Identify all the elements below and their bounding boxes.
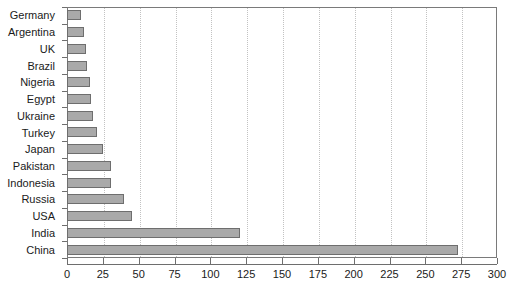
- x-axis-tick: [246, 258, 247, 264]
- x-axis-tick: [425, 258, 426, 264]
- x-axis-tick: [67, 258, 68, 264]
- x-axis-tick: [139, 258, 140, 264]
- bar-row: [67, 57, 87, 74]
- x-axis-tick-label: 0: [64, 268, 70, 280]
- x-axis-tick: [175, 258, 176, 264]
- y-axis-tick: [62, 40, 67, 41]
- bar-chart: GermanyArgentinaUKBrazilNigeriaEgyptUkra…: [0, 0, 512, 290]
- x-axis-tick-label: 25: [97, 268, 109, 280]
- x-axis-tick-label: 200: [344, 268, 362, 280]
- bar: [67, 228, 240, 238]
- y-axis-tick-label: Japan: [25, 143, 55, 155]
- y-axis-tick: [62, 225, 67, 226]
- y-axis-tick-label: Ukraine: [17, 110, 55, 122]
- bar: [67, 245, 458, 255]
- x-axis-tick: [354, 258, 355, 264]
- y-axis-tick: [62, 74, 67, 75]
- y-axis-tick: [62, 107, 67, 108]
- x-axis-tick: [103, 258, 104, 264]
- x-axis-tick-label: 100: [201, 268, 219, 280]
- x-axis-tick: [318, 258, 319, 264]
- y-axis-tick-label: Germany: [10, 9, 55, 21]
- y-axis-tick-label: India: [31, 227, 55, 239]
- x-axis-tick-label: 275: [452, 268, 470, 280]
- bar-row: [67, 208, 132, 225]
- y-axis-labels: GermanyArgentinaUKBrazilNigeriaEgyptUkra…: [0, 7, 61, 258]
- y-axis-tick-label: Egypt: [27, 93, 55, 105]
- x-axis-tick-label: 125: [237, 268, 255, 280]
- y-axis-tick-label: UK: [40, 43, 55, 55]
- bar: [67, 77, 90, 87]
- y-axis-tick-label: USA: [32, 210, 55, 222]
- bar-row: [67, 225, 240, 242]
- bar-row: [67, 107, 93, 124]
- bar-row: [67, 74, 90, 91]
- x-axis-tick-label: 250: [416, 268, 434, 280]
- y-axis-tick-label: Nigeria: [20, 76, 55, 88]
- bar: [67, 61, 87, 71]
- bar-row: [67, 7, 81, 24]
- x-axis-tick-label: 225: [380, 268, 398, 280]
- bars-layer: [67, 7, 497, 258]
- y-axis-tick: [62, 124, 67, 125]
- bar-row: [67, 24, 84, 41]
- bar-row: [67, 158, 111, 175]
- y-axis-tick: [62, 208, 67, 209]
- y-axis-tick: [62, 7, 67, 8]
- y-axis-tick: [62, 158, 67, 159]
- y-axis-tick: [62, 191, 67, 192]
- bar-row: [67, 124, 97, 141]
- bar: [67, 178, 111, 188]
- y-axis-tick-label: Indonesia: [7, 177, 55, 189]
- bar: [67, 211, 132, 221]
- bar-row: [67, 174, 111, 191]
- y-axis-tick: [62, 24, 67, 25]
- bar-row: [67, 40, 86, 57]
- y-axis-tick-label: China: [26, 244, 55, 256]
- x-axis-tick-label: 75: [168, 268, 180, 280]
- x-axis-tick: [390, 258, 391, 264]
- bar: [67, 194, 124, 204]
- y-axis-tick: [62, 57, 67, 58]
- bar-row: [67, 241, 458, 258]
- bar-row: [67, 141, 103, 158]
- x-axis-tick-label: 150: [273, 268, 291, 280]
- bar: [67, 144, 103, 154]
- x-axis-tick: [282, 258, 283, 264]
- x-axis-tick: [461, 258, 462, 264]
- x-axis-tick-label: 50: [133, 268, 145, 280]
- y-axis-tick-label: Argentina: [8, 26, 55, 38]
- bar-row: [67, 91, 91, 108]
- y-axis-tick-label: Pakistan: [13, 160, 55, 172]
- y-axis-tick: [62, 91, 67, 92]
- bar: [67, 127, 97, 137]
- bar: [67, 111, 93, 121]
- y-axis-tick: [62, 241, 67, 242]
- y-axis-tick-label: Russia: [21, 193, 55, 205]
- y-axis-tick-label: Brazil: [27, 60, 55, 72]
- y-axis-tick-label: Turkey: [22, 127, 55, 139]
- bar: [67, 44, 86, 54]
- bar: [67, 10, 81, 20]
- bar: [67, 27, 84, 37]
- bar: [67, 94, 91, 104]
- x-axis-tick: [497, 258, 498, 264]
- x-axis-tick: [210, 258, 211, 264]
- bar: [67, 161, 111, 171]
- bar-row: [67, 191, 124, 208]
- y-axis-tick: [62, 174, 67, 175]
- x-axis-tick-label: 300: [488, 268, 506, 280]
- y-axis-tick: [62, 141, 67, 142]
- x-axis-tick-label: 175: [309, 268, 327, 280]
- x-axis-line: [67, 264, 497, 265]
